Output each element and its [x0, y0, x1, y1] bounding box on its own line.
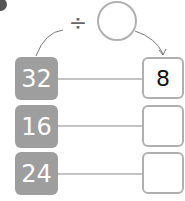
answer-box-1[interactable]: 8 [142, 57, 184, 99]
division-icon: ÷ [68, 10, 88, 34]
input-box-3: 24 [15, 152, 58, 195]
divisor-circle [98, 2, 136, 40]
input-box-2: 16 [15, 105, 58, 148]
input-box-1: 32 [15, 57, 58, 100]
answer-box-3[interactable] [142, 152, 184, 194]
answer-box-2[interactable] [142, 105, 184, 147]
